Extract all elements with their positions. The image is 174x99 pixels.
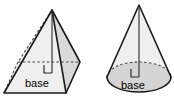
geometry-figure: base base — [0, 0, 174, 99]
pyramid-shape: base — [4, 10, 80, 93]
cone-shape: base — [107, 5, 171, 92]
pyramid-base-label: base — [25, 77, 49, 89]
cone-base-label: base — [121, 79, 145, 91]
figure-canvas: base base — [0, 0, 174, 99]
